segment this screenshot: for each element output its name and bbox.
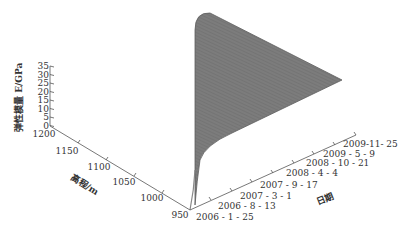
y-axis-label: 高程/m bbox=[69, 171, 101, 197]
y-tick: 1150 bbox=[56, 146, 79, 156]
y-tick: 1100 bbox=[88, 162, 111, 172]
x-tick: 2008 - 4 - 4 bbox=[286, 168, 338, 178]
x-tick: 2008 - 10 - 21 bbox=[306, 158, 369, 168]
x-tick: 2009-11- 25 bbox=[343, 139, 398, 149]
x-tick: 2006 - 8 - 13 bbox=[218, 201, 276, 211]
x-tick: 2009 - 5 - 9 bbox=[323, 149, 375, 159]
y-tick: 950 bbox=[171, 210, 188, 220]
x-axis-label: 日期 bbox=[315, 190, 336, 207]
x-tick: 2006 - 1 - 25 bbox=[196, 212, 254, 222]
surface-chart: 35 30 25 20 15 10 5 0 弹性模量 E/GPa 1200 bbox=[0, 0, 409, 234]
x-axis: 2006 - 1 - 25 2006 - 8 - 13 2007 - 3 - 1… bbox=[190, 132, 398, 222]
y-tick: 1050 bbox=[113, 177, 136, 187]
x-tick: 2007 - 9 - 17 bbox=[260, 180, 318, 190]
y-axis: 1200 1150 1100 1050 1000 950 高程/m bbox=[33, 126, 190, 220]
y-tick: 1200 bbox=[33, 129, 56, 139]
z-axis-label: 弹性模量 E/GPa bbox=[13, 63, 24, 132]
z-axis: 35 30 25 20 15 10 5 0 弹性模量 E/GPa bbox=[13, 61, 54, 132]
y-tick: 1000 bbox=[141, 193, 164, 203]
x-tick: 2007 - 3 - 1 bbox=[240, 191, 292, 201]
